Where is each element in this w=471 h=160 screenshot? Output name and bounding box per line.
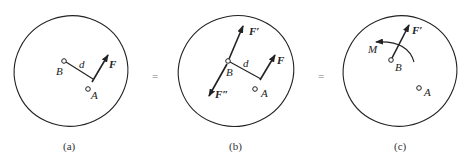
point-A — [253, 87, 258, 92]
rigid-body-outline — [163, 0, 310, 143]
label-F-double-prime: F″ — [214, 88, 228, 100]
equals-sign-2: = — [318, 70, 324, 82]
label-A: A — [90, 89, 98, 101]
label-B: B — [395, 61, 402, 73]
label-B: B — [226, 66, 233, 78]
label-M: M — [367, 43, 378, 55]
equals-sign-1: = — [152, 70, 158, 82]
label-F: F — [108, 58, 117, 70]
panel-b: F′ B d F A F″ (b) — [163, 0, 310, 153]
label-B: B — [56, 65, 63, 77]
caption-b: (b) — [229, 140, 242, 153]
point-A — [86, 87, 91, 92]
label-F: F — [276, 54, 285, 66]
label-d: d — [79, 58, 85, 70]
caption-c: (c) — [394, 140, 407, 153]
force-arrow-F — [92, 55, 108, 82]
label-A: A — [423, 86, 431, 98]
label-F-prime: F′ — [248, 25, 259, 37]
label-A: A — [260, 87, 268, 99]
label-d: d — [243, 57, 249, 69]
panel-a: B d F A (a) — [0, 0, 143, 153]
label-F-prime: F′ — [411, 24, 422, 36]
point-A — [417, 86, 422, 91]
force-translation-diagram: B d F A (a) = F′ B d F A F″ (b) = F′ M B… — [0, 0, 471, 160]
force-arrow-F — [260, 55, 275, 80]
point-B — [226, 59, 231, 64]
caption-a: (a) — [63, 140, 76, 153]
point-B — [389, 58, 394, 63]
rigid-body-outline — [0, 0, 143, 142]
panel-c: F′ M B A (c) — [328, 0, 471, 153]
point-B — [62, 59, 67, 64]
force-arrow-F-prime — [392, 25, 409, 58]
force-arrow-F-prime — [229, 26, 243, 59]
